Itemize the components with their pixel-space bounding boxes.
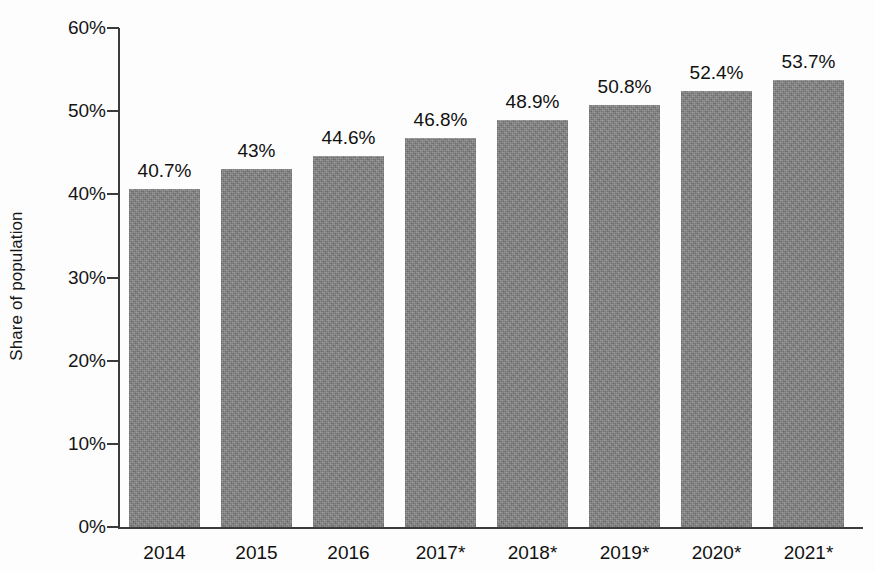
y-tick-mark-10: [107, 443, 119, 445]
y-tick-mark-40: [107, 193, 119, 195]
bar-group: 43%2015: [221, 0, 292, 572]
bar[interactable]: [497, 120, 568, 527]
bar-group: 52.4%2020*: [681, 0, 752, 572]
bar-group: 44.6%2016: [313, 0, 384, 572]
bar[interactable]: [129, 189, 200, 527]
bar[interactable]: [313, 156, 384, 527]
x-tick-label-2017-est: 2017*: [389, 542, 492, 564]
y-tick-mark-20: [107, 360, 119, 362]
bar[interactable]: [221, 169, 292, 527]
x-tick-label-2014: 2014: [113, 542, 216, 564]
bar-group: 46.8%2017*: [405, 0, 476, 572]
bar-value-label: 40.7%: [113, 160, 216, 182]
bar-group: 53.7%2021*: [773, 0, 844, 572]
y-tick-mark-60: [107, 27, 119, 29]
y-tick-mark-30: [107, 277, 119, 279]
bar-value-label: 48.9%: [481, 91, 584, 113]
y-tick-label-10: 10%: [34, 433, 106, 455]
y-axis-tick-labels: 0%10%20%30%40%50%60%: [34, 0, 106, 572]
y-tick-mark-0: [107, 526, 119, 528]
x-tick-label-2021-est: 2021*: [757, 542, 860, 564]
y-tick-label-50: 50%: [34, 100, 106, 122]
x-tick-label-2018-est: 2018*: [481, 542, 584, 564]
plot-area: 40.7%201443%201544.6%201646.8%2017*48.9%…: [118, 0, 863, 572]
bar-group: 50.8%2019*: [589, 0, 660, 572]
bar-value-label: 44.6%: [297, 127, 400, 149]
x-tick-label-2015: 2015: [205, 542, 308, 564]
bar[interactable]: [589, 105, 660, 527]
y-tick-mark-50: [107, 110, 119, 112]
x-tick-label-2019-est: 2019*: [573, 542, 676, 564]
bar[interactable]: [773, 80, 844, 527]
bar-value-label: 52.4%: [665, 62, 768, 84]
bar-value-label: 43%: [205, 140, 308, 162]
x-tick-label-2016: 2016: [297, 542, 400, 564]
y-tick-label-20: 20%: [34, 350, 106, 372]
bar-value-label: 53.7%: [757, 51, 860, 73]
bar-group: 40.7%2014: [129, 0, 200, 572]
bars-layer: 40.7%201443%201544.6%201646.8%2017*48.9%…: [118, 0, 863, 572]
y-tick-label-0: 0%: [34, 516, 106, 538]
bar-value-label: 50.8%: [573, 76, 676, 98]
y-axis-title: Share of population: [0, 0, 34, 572]
y-tick-label-60: 60%: [34, 17, 106, 39]
bar[interactable]: [405, 138, 476, 527]
bar-chart: Share of population 0%10%20%30%40%50%60%…: [0, 0, 875, 572]
y-tick-label-30: 30%: [34, 267, 106, 289]
y-tick-label-40: 40%: [34, 183, 106, 205]
bar-group: 48.9%2018*: [497, 0, 568, 572]
bar[interactable]: [681, 91, 752, 527]
x-tick-label-2020-est: 2020*: [665, 542, 768, 564]
bar-value-label: 46.8%: [389, 109, 492, 131]
bottom-edge-artifact: [300, 562, 875, 572]
